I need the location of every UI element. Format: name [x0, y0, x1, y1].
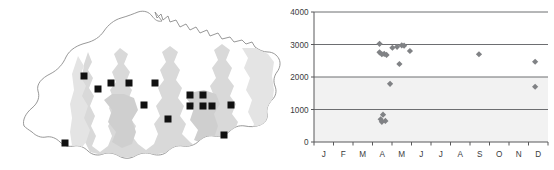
map-marker: [187, 92, 194, 99]
map-marker: [62, 140, 69, 147]
chart-y-tick-label: 1000: [290, 106, 309, 115]
chart-band: [314, 77, 548, 110]
map-marker: [141, 102, 148, 109]
figure: 01000200030004000 JFMAMJJASOND: [0, 0, 554, 170]
map-marker: [187, 103, 194, 110]
chart-x-tick-label: M: [359, 150, 366, 159]
distribution-map-panel: [0, 0, 290, 170]
chart-data-point: [396, 61, 402, 67]
chart-y-tick-label: 4000: [290, 8, 309, 17]
altitude-scatter-chart: 01000200030004000 JFMAMJJASOND: [290, 0, 554, 170]
chart-x-tick-label: F: [341, 150, 346, 159]
map-marker: [209, 103, 216, 110]
chart-x-tick-label: N: [516, 150, 522, 159]
map-marker: [108, 80, 115, 87]
map-marker: [95, 86, 102, 93]
chart-y-axis-labels: 01000200030004000: [290, 8, 314, 147]
chart-data-point: [532, 59, 538, 65]
chart-x-axis-labels: JFMAMJJASOND: [314, 142, 548, 159]
chart-x-tick-label: J: [322, 150, 326, 159]
altitude-scatter-panel: 01000200030004000 JFMAMJJASOND: [290, 0, 554, 170]
chart-x-tick-label: A: [380, 150, 386, 159]
chart-y-tick-label: 0: [304, 138, 309, 147]
map-marker: [152, 80, 159, 87]
map-marker: [200, 92, 207, 99]
chart-x-tick-label: O: [496, 150, 502, 159]
chart-data-point: [376, 41, 382, 47]
chart-data-point: [476, 51, 482, 57]
chart-x-tick-label: J: [439, 150, 443, 159]
map-marker: [221, 132, 228, 139]
chart-x-tick-label: M: [398, 150, 405, 159]
map-marker: [165, 116, 172, 123]
chart-x-tick-label: D: [535, 150, 541, 159]
chart-x-tick-label: A: [458, 150, 464, 159]
chart-x-tick-label: S: [477, 150, 483, 159]
map-marker: [200, 103, 207, 110]
chart-y-tick-label: 2000: [290, 73, 309, 82]
chart-x-tick-label: J: [419, 150, 423, 159]
chart-data-point: [389, 45, 395, 51]
chart-y-tick-label: 3000: [290, 41, 309, 50]
map-marker: [81, 73, 88, 80]
chart-data-point: [407, 48, 413, 54]
bhutan-map: [0, 0, 290, 170]
map-marker: [228, 102, 235, 109]
map-marker: [126, 80, 133, 87]
chart-band: [314, 110, 548, 143]
